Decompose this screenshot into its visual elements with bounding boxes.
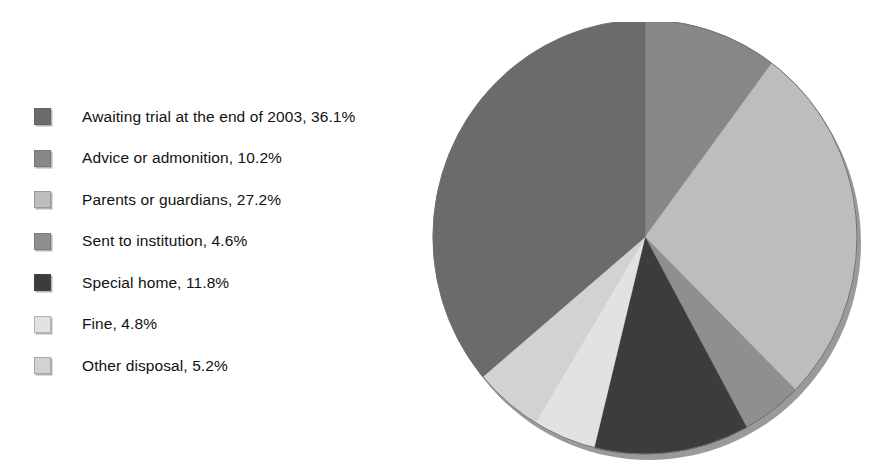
legend-swatch-fine <box>34 316 51 333</box>
pie-chart-figure: Awaiting trial at the end of 2003, 36.1%… <box>0 0 887 476</box>
legend-swatch-institution <box>34 233 51 250</box>
pie-chart-graphic <box>431 22 861 466</box>
legend-item-other[interactable]: Other disposal, 5.2% <box>34 345 434 387</box>
pie-slice-group <box>433 22 857 454</box>
legend-swatch-special-home <box>34 274 51 291</box>
legend-item-advice[interactable]: Advice or admonition, 10.2% <box>34 138 434 180</box>
legend-label-awaiting-trial: Awaiting trial at the end of 2003, 36.1% <box>82 108 355 126</box>
legend-item-parents[interactable]: Parents or guardians, 27.2% <box>34 179 434 221</box>
legend-swatch-parents <box>34 191 51 208</box>
chart-legend: Awaiting trial at the end of 2003, 36.1%… <box>34 96 434 387</box>
legend-item-fine[interactable]: Fine, 4.8% <box>34 304 434 346</box>
legend-swatch-awaiting-trial <box>34 108 51 125</box>
legend-item-special-home[interactable]: Special home, 11.8% <box>34 262 434 304</box>
pie-svg <box>431 22 861 466</box>
legend-label-special-home: Special home, 11.8% <box>82 274 229 292</box>
legend-label-parents: Parents or guardians, 27.2% <box>82 191 281 209</box>
legend-swatch-other <box>34 357 51 374</box>
legend-item-awaiting-trial[interactable]: Awaiting trial at the end of 2003, 36.1% <box>34 96 434 138</box>
legend-swatch-advice <box>34 150 51 167</box>
legend-label-advice: Advice or admonition, 10.2% <box>82 149 282 167</box>
legend-label-other: Other disposal, 5.2% <box>82 357 228 375</box>
legend-label-fine: Fine, 4.8% <box>82 315 157 333</box>
legend-label-institution: Sent to institution, 4.6% <box>82 232 247 250</box>
legend-item-institution[interactable]: Sent to institution, 4.6% <box>34 221 434 263</box>
